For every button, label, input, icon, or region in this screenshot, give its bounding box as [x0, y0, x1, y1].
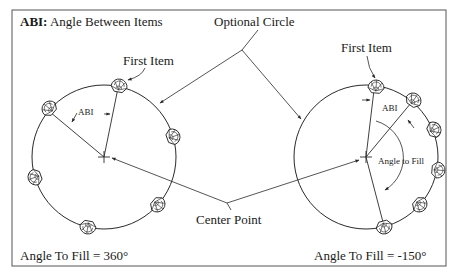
- center-point-leaders: [112, 158, 359, 210]
- right-example: Angle to Fill ABI First Item Angle To Fi…: [294, 40, 446, 263]
- optional-circle-label: Optional Circle: [214, 14, 295, 29]
- left-abi-label: ABI: [78, 107, 94, 117]
- right-item-5: [410, 195, 430, 216]
- left-item-3: [26, 168, 44, 187]
- circular-pattern-diagram: ABI: Angle Between Items Optional Circle…: [0, 0, 458, 278]
- title: ABI: Angle Between Items: [20, 14, 163, 29]
- left-caption: Angle To Fill = 360°: [20, 248, 128, 263]
- right-caption: Angle To Fill = -150°: [314, 248, 427, 263]
- left-example: ABI First Item Angle To Fill = 360°: [20, 53, 182, 263]
- title-abbr: ABI:: [20, 14, 47, 29]
- right-abi-label: ABI: [382, 103, 398, 113]
- optional-circle-leaders: [160, 30, 301, 119]
- left-item-1-first: [110, 78, 128, 94]
- right-item-1-first: [368, 79, 385, 93]
- left-item-6: [165, 127, 183, 146]
- right-item-6: [375, 219, 394, 236]
- left-first-item-label: First Item: [123, 53, 174, 68]
- center-point-label: Center Point: [196, 212, 262, 227]
- title-text: Angle Between Items: [47, 14, 162, 29]
- angle-to-fill-inner-label: Angle to Fill: [378, 156, 425, 166]
- left-item-5: [148, 195, 168, 216]
- right-item-2: [404, 90, 425, 110]
- right-item-4: [431, 162, 445, 179]
- right-first-item-label: First Item: [341, 40, 392, 55]
- left-item-2: [39, 98, 59, 119]
- left-item-4: [79, 220, 97, 236]
- right-item-3: [425, 119, 444, 139]
